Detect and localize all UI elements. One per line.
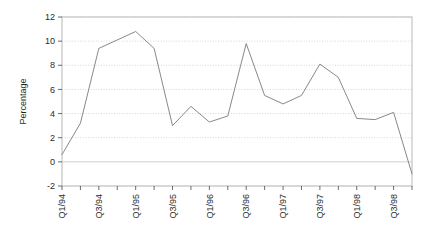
- y-tick-label: 0: [50, 157, 55, 167]
- x-tick-label: Q1/95: [131, 194, 141, 219]
- x-tick-label: Q1/98: [352, 194, 362, 219]
- x-tick-label: Q3/96: [241, 194, 251, 219]
- chart-figure: -2024681012 Q1/94Q3/94Q1/95Q3/95Q1/96Q3/…: [0, 0, 426, 241]
- x-tick-label: Q1/94: [57, 194, 67, 219]
- y-tick-label: 12: [45, 12, 55, 22]
- y-tick-label: -2: [47, 181, 55, 191]
- y-tick-label: 4: [50, 109, 55, 119]
- y-tick-label: 10: [45, 36, 55, 46]
- x-tick-label: Q3/95: [168, 194, 178, 219]
- line-chart: -2024681012 Q1/94Q3/94Q1/95Q3/95Q1/96Q3/…: [0, 0, 426, 241]
- x-tick-label: Q1/96: [205, 194, 215, 219]
- y-tick-label: 6: [50, 85, 55, 95]
- y-tick-label: 8: [50, 60, 55, 70]
- y-axis-title: Percentage: [18, 78, 28, 124]
- x-tick-label: Q1/97: [278, 194, 288, 219]
- x-tick-label: Q3/98: [389, 194, 399, 219]
- y-tick-label: 2: [50, 133, 55, 143]
- x-tick-label: Q3/97: [315, 194, 325, 219]
- x-tick-label: Q3/94: [94, 194, 104, 219]
